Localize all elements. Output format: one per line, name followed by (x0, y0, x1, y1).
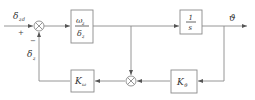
integrator-denominator: s (189, 24, 193, 32)
k-theta-subscript: ϑ (184, 82, 188, 88)
multiplier-junction (126, 76, 136, 86)
plus-sign: + (18, 29, 24, 37)
k-omega-subscript: ω (82, 81, 86, 87)
feedback-label-subscript: z (32, 55, 36, 61)
block-diagram: δ zd + − δ z ω z δ z 1 s K ϑ K ω ϑ (0, 0, 255, 100)
input-label-subscript: zd (18, 16, 25, 22)
summing-junction (34, 21, 44, 31)
output-label: ϑ (229, 13, 236, 23)
integrator-numerator: 1 (189, 14, 193, 22)
forward-gain-denominator-sub: z (81, 33, 85, 39)
input-label: δ (13, 11, 18, 21)
minus-sign: − (30, 37, 36, 45)
forward-gain-numerator-sub: z (81, 20, 85, 26)
feedback-label: δ (27, 49, 32, 59)
komega-feedback-line (39, 32, 70, 81)
